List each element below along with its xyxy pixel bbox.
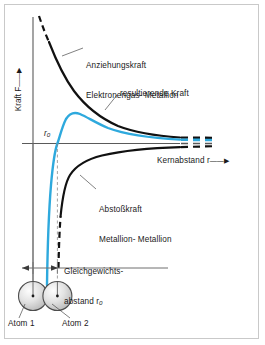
attraction-curve-label: Anziehungskraft Elektronengas- Metallion	[86, 41, 179, 121]
atom-2-nucleus	[56, 295, 59, 298]
repulsion-curve-label-line2: Metallion- Metallion	[99, 235, 172, 245]
attraction-curve-dashed-start	[39, 16, 49, 42]
atom-1-label: Atom 1	[8, 319, 35, 329]
figure-container: Kraft F——▶ Kernabstand r——▶ r0 Anziehung…	[0, 0, 265, 345]
resultant-curve-label: resultierende Kraft	[120, 89, 189, 99]
atom-1-nucleus	[32, 295, 35, 298]
leader-line-attraction	[62, 48, 83, 56]
y-axis-label: Kraft F——▶	[14, 60, 23, 120]
y-axis-label-text: Kraft F	[14, 87, 23, 112]
x-axis-label: Kernabstand r——▶	[157, 156, 229, 166]
leader-line-repulsion	[80, 175, 96, 189]
r0-tick-label: r0	[44, 129, 50, 140]
dimension-label-line2-text: abstand r	[64, 297, 99, 306]
y-axis-label-arrow: ——▶	[15, 68, 22, 87]
x-axis-label-arrow: ——▶	[210, 157, 229, 164]
dimension-label-line2: abstand r0	[64, 297, 123, 308]
dimension-arrow-right	[51, 265, 58, 271]
dimension-label-line1: Gleichgewichts-	[64, 267, 123, 277]
r0-tick-label-sub: 0	[47, 131, 51, 138]
repulsion-curve-dashed-start	[59, 216, 61, 268]
dimension-label: Gleichgewichts- abstand r0	[64, 247, 123, 328]
dimension-arrow-left	[22, 265, 29, 271]
dimension-label-line2-sub: 0	[99, 299, 103, 306]
x-axis-label-text: Kernabstand r	[157, 156, 210, 165]
repulsion-curve-dashed-end	[181, 146, 213, 147]
attraction-curve-label-line1: Anziehungskraft	[86, 61, 179, 71]
atom-2-label: Atom 2	[62, 319, 89, 329]
repulsion-curve-label-line1: Abstoßkraft	[99, 205, 172, 215]
